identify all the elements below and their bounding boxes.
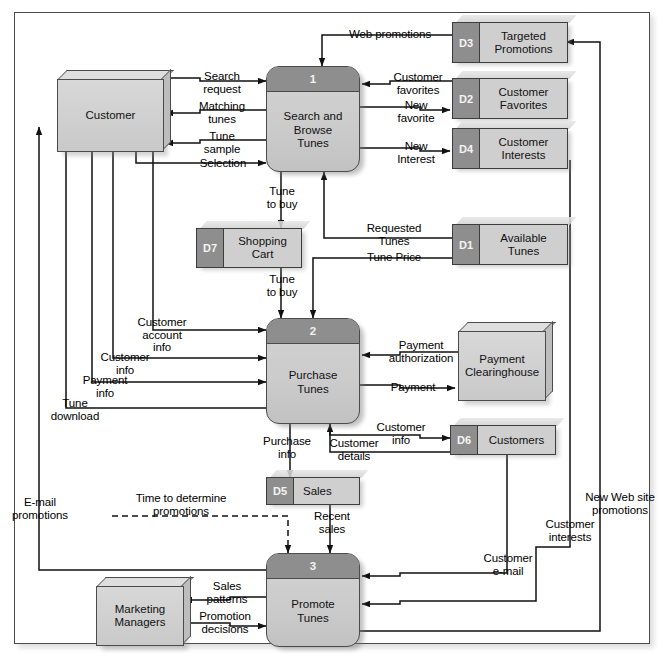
- datastore-id: D1: [453, 225, 480, 264]
- datastore-label: Customer Favorites: [480, 79, 567, 118]
- process-1-search-and-browse-tunes[interactable]: 1 Search and Browse Tunes: [266, 66, 358, 170]
- flow-label-tune-download: Tune download: [38, 397, 112, 422]
- flow-label-tune-to-buy-2: Tune to buy: [254, 273, 310, 298]
- datastore-id: D3: [453, 23, 480, 62]
- process-number: 3: [267, 554, 359, 579]
- process-body: 2 Purchase Tunes: [266, 318, 360, 424]
- flow-label-matching-tunes: Matching tunes: [186, 100, 258, 125]
- datastore-label: Shopping Cart: [224, 229, 301, 267]
- process-label: Purchase Tunes: [267, 345, 359, 423]
- flow-label-new-favorite: New favorite: [380, 99, 452, 124]
- datastore-label: Customers: [478, 426, 555, 454]
- flow-label-customer-details: Customer details: [317, 437, 391, 462]
- flow-label-promotion-decisions: Promotion decisions: [186, 610, 264, 635]
- datastore-label: Targeted Promotions: [480, 23, 567, 62]
- process-number: 1: [267, 67, 359, 92]
- datastore-box: D2 Customer Favorites: [452, 78, 568, 119]
- datastore-id: D6: [451, 426, 478, 454]
- datastore-box: D3 Targeted Promotions: [452, 22, 568, 63]
- datastore-d2-customer-favorites[interactable]: D2 Customer Favorites: [452, 78, 566, 117]
- flow-label-customer-info-left: Customer info: [88, 351, 162, 376]
- datastore-id: D4: [453, 129, 480, 168]
- datastore-box: D5 Sales: [266, 477, 360, 505]
- flow-label-search-request: Search request: [186, 70, 258, 95]
- process-body: 1 Search and Browse Tunes: [266, 66, 360, 172]
- flow-label-email-promotions: E-mail promotions: [6, 496, 74, 521]
- datastore-id: D7: [197, 229, 224, 267]
- flow-label-payment-authorization: Payment authorization: [374, 339, 468, 364]
- datastore-label: Customer Interests: [480, 129, 567, 168]
- datastore-id: D5: [267, 478, 294, 504]
- flow-line-time-to-determine: [112, 516, 288, 553]
- flow-label-tune-to-buy-1: Tune to buy: [254, 185, 310, 210]
- flow-label-customer-favorites: Customer favorites: [378, 71, 458, 96]
- entity-label: Marketing Managers: [96, 586, 184, 646]
- flow-label-tune-price: Tune Price: [338, 251, 450, 264]
- flow-label-payment-info: Payment info: [72, 374, 138, 399]
- datastore-d6-customers[interactable]: D6 Customers: [450, 425, 554, 453]
- flow-label-new-interest: New Interest: [380, 140, 452, 165]
- entity-customer[interactable]: Customer: [57, 79, 162, 150]
- datastore-d3-targeted-promotions[interactable]: D3 Targeted Promotions: [452, 22, 566, 61]
- flow-label-time-to-determine-promotions: Time to determine promotions: [110, 492, 252, 517]
- flow-label-customer-email: Customer e-mail: [468, 552, 548, 577]
- process-label: Promote Tunes: [267, 580, 359, 646]
- flow-label-selection: Selection: [182, 157, 264, 170]
- flow-label-customer-account-info: Customer account info: [122, 316, 202, 354]
- flow-label-purchase-info: Purchase info: [250, 435, 324, 460]
- flow-label-new-web-site-promotions: New Web site promotions: [578, 491, 662, 516]
- entity-label: Customer: [57, 79, 164, 152]
- process-3-promote-tunes[interactable]: 3 Promote Tunes: [266, 553, 358, 645]
- flow-label-recent-sales: Recent sales: [304, 510, 360, 535]
- entity-payment-clearinghouse[interactable]: Payment Clearinghouse: [458, 331, 544, 399]
- datastore-d1-available-tunes[interactable]: D1 Available Tunes: [452, 224, 566, 263]
- flow-label-sales-patterns: Sales patterns: [192, 580, 262, 605]
- datastore-d5-sales[interactable]: D5 Sales: [266, 477, 358, 503]
- process-2-purchase-tunes[interactable]: 2 Purchase Tunes: [266, 318, 358, 422]
- datastore-d4-customer-interests[interactable]: D4 Customer Interests: [452, 128, 566, 167]
- flow-label-tune-sample: Tune sample: [186, 130, 258, 155]
- datastore-box: D4 Customer Interests: [452, 128, 568, 169]
- entity-marketing-managers[interactable]: Marketing Managers: [96, 586, 182, 644]
- flow-line-tune-price: [313, 258, 452, 318]
- dfd-canvas: Customer Payment Clearinghouse Marketing…: [0, 0, 664, 667]
- datastore-label: Sales: [294, 478, 359, 504]
- flow-label-web-promotions: Web promotions: [328, 28, 452, 41]
- entity-label: Payment Clearinghouse: [458, 331, 546, 401]
- datastore-d7-shopping-cart[interactable]: D7 Shopping Cart: [196, 228, 300, 266]
- datastore-label: Available Tunes: [480, 225, 567, 264]
- flow-label-requested-tunes: Requested Tunes: [338, 222, 450, 247]
- flow-label-payment: Payment: [376, 381, 450, 394]
- process-label: Search and Browse Tunes: [267, 93, 359, 171]
- process-number: 2: [267, 319, 359, 344]
- datastore-box: D7 Shopping Cart: [196, 228, 302, 268]
- process-body: 3 Promote Tunes: [266, 553, 360, 647]
- datastore-box: D6 Customers: [450, 425, 556, 455]
- flow-label-customer-interests: Customer interests: [530, 518, 610, 543]
- datastore-box: D1 Available Tunes: [452, 224, 568, 265]
